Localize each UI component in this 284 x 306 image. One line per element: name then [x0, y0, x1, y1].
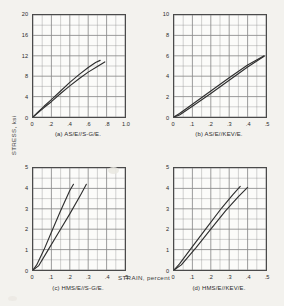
- caption-c: (c) HMS/E//S-G/E.: [28, 285, 128, 291]
- x-tick-d-4: .4: [246, 274, 251, 280]
- y-tick-c-1: 1: [10, 247, 28, 253]
- x-tick-c-4: .4: [105, 274, 110, 280]
- y-tick-a-3: 12: [10, 53, 28, 59]
- x-tick-d-5: .5: [265, 274, 270, 280]
- y-tick-a-5: 20: [10, 11, 28, 17]
- x-tick-a-2: .4: [67, 121, 72, 127]
- y-tick-b-0: 0: [151, 115, 169, 121]
- caption-d: (d) HMS/E//KEV/E.: [169, 285, 269, 291]
- x-tick-c-5: .5: [124, 274, 129, 280]
- y-tick-a-1: 4: [10, 94, 28, 100]
- y-tick-b-3: 6: [151, 53, 169, 59]
- x-tick-b-3: .3: [227, 121, 232, 127]
- plot-area-a: [32, 14, 126, 118]
- x-tick-b-1: .1: [189, 121, 194, 127]
- x-tick-d-1: .1: [189, 274, 194, 280]
- plot-area-d: [173, 167, 267, 271]
- y-tick-a-2: 8: [10, 73, 28, 79]
- y-tick-d-0: 0: [151, 268, 169, 274]
- x-tick-b-5: .5: [265, 121, 270, 127]
- y-tick-b-5: 10: [151, 11, 169, 17]
- x-tick-d-3: .3: [227, 274, 232, 280]
- y-tick-a-4: 16: [10, 32, 28, 38]
- y-tick-a-0: 0: [10, 115, 28, 121]
- scan-artifact: [108, 167, 119, 174]
- y-tick-d-4: 4: [151, 185, 169, 191]
- x-tick-a-0: 0: [30, 121, 33, 127]
- stress-strain-figure: STRESS, ksi STRAIN, percent 0481216200.2…: [0, 0, 284, 306]
- x-tick-b-0: 0: [171, 121, 174, 127]
- scan-artifact: [8, 296, 17, 301]
- y-tick-c-2: 2: [10, 226, 28, 232]
- y-tick-d-2: 2: [151, 226, 169, 232]
- plot-area-c: [32, 167, 126, 271]
- x-tick-a-5: 1.0: [122, 121, 130, 127]
- y-tick-b-2: 4: [151, 73, 169, 79]
- y-tick-d-3: 3: [151, 206, 169, 212]
- x-tick-c-0: 0: [30, 274, 33, 280]
- x-tick-d-0: 0: [171, 274, 174, 280]
- x-tick-a-1: .2: [48, 121, 53, 127]
- x-tick-c-2: .2: [67, 274, 72, 280]
- x-tick-a-4: .8: [105, 121, 110, 127]
- y-tick-c-3: 3: [10, 206, 28, 212]
- y-tick-b-4: 8: [151, 32, 169, 38]
- y-tick-d-1: 1: [151, 247, 169, 253]
- x-tick-d-2: .2: [208, 274, 213, 280]
- x-tick-c-3: .3: [86, 274, 91, 280]
- y-tick-b-1: 2: [151, 94, 169, 100]
- x-tick-c-1: .1: [48, 274, 53, 280]
- y-tick-c-0: 0: [10, 268, 28, 274]
- x-tick-a-3: .6: [86, 121, 91, 127]
- x-tick-b-4: .4: [246, 121, 251, 127]
- y-tick-d-5: 5: [151, 164, 169, 170]
- y-tick-c-5: 5: [10, 164, 28, 170]
- caption-a: (a) AS/E//S-G/E.: [28, 131, 128, 137]
- y-tick-c-4: 4: [10, 185, 28, 191]
- figure-y-axis-label: STRESS, ksi: [10, 101, 17, 171]
- x-tick-b-2: .2: [208, 121, 213, 127]
- caption-b: (b) AS/E//KEV/E.: [169, 131, 269, 137]
- plot-area-b: [173, 14, 267, 118]
